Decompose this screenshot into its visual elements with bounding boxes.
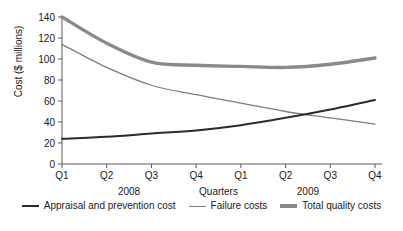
legend-swatch-total — [280, 204, 297, 208]
x-group-label: Quarters — [199, 186, 238, 197]
legend-swatch-failure — [189, 206, 206, 207]
legend-label-total: Total quality costs — [302, 200, 381, 212]
x-tick-label: Q1 — [234, 170, 248, 181]
series-lines — [62, 17, 375, 139]
x-group-label: 2009 — [297, 186, 320, 197]
legend-item-appraisal: Appraisal and prevention cost — [22, 200, 176, 212]
y-tick-label: 80 — [44, 75, 56, 86]
y-tick-label: 40 — [44, 117, 56, 128]
x-tick-label: Q3 — [324, 170, 338, 181]
plot-area: 020406080100120140 Q1Q2Q3Q4Q1Q2Q3Q4 2008… — [0, 0, 403, 200]
x-tick-label: Q4 — [368, 170, 382, 181]
x-axis-ticks: Q1Q2Q3Q4Q1Q2Q3Q4 — [55, 164, 382, 181]
x-group-labels: 2008Quarters2009 — [118, 186, 320, 197]
series-line-total-quality-costs — [62, 17, 375, 67]
y-tick-label: 120 — [38, 33, 55, 44]
y-axis-ticks: 020406080100120140 — [38, 12, 62, 170]
legend-label-failure: Failure costs — [211, 200, 268, 212]
y-tick-label: 20 — [44, 138, 56, 149]
y-tick-label: 140 — [38, 12, 55, 23]
x-tick-label: Q2 — [100, 170, 114, 181]
y-tick-label: 0 — [49, 159, 55, 170]
x-tick-label: Q2 — [279, 170, 293, 181]
legend-label-appraisal: Appraisal and prevention cost — [44, 200, 176, 212]
legend-swatch-appraisal — [22, 205, 39, 207]
x-group-label: 2008 — [118, 186, 141, 197]
y-tick-label: 60 — [44, 96, 56, 107]
x-tick-label: Q1 — [55, 170, 69, 181]
series-line-appraisal-and-prevention-cost — [62, 100, 375, 139]
legend-item-failure: Failure costs — [189, 200, 268, 212]
x-tick-label: Q3 — [145, 170, 159, 181]
chart-legend: Appraisal and prevention cost Failure co… — [0, 200, 403, 212]
line-chart: Cost ($ millions) 020406080100120140 Q1Q… — [0, 0, 403, 231]
legend-item-total: Total quality costs — [280, 200, 381, 212]
series-line-failure-costs — [62, 44, 375, 124]
x-tick-label: Q4 — [189, 170, 203, 181]
y-tick-label: 100 — [38, 54, 55, 65]
